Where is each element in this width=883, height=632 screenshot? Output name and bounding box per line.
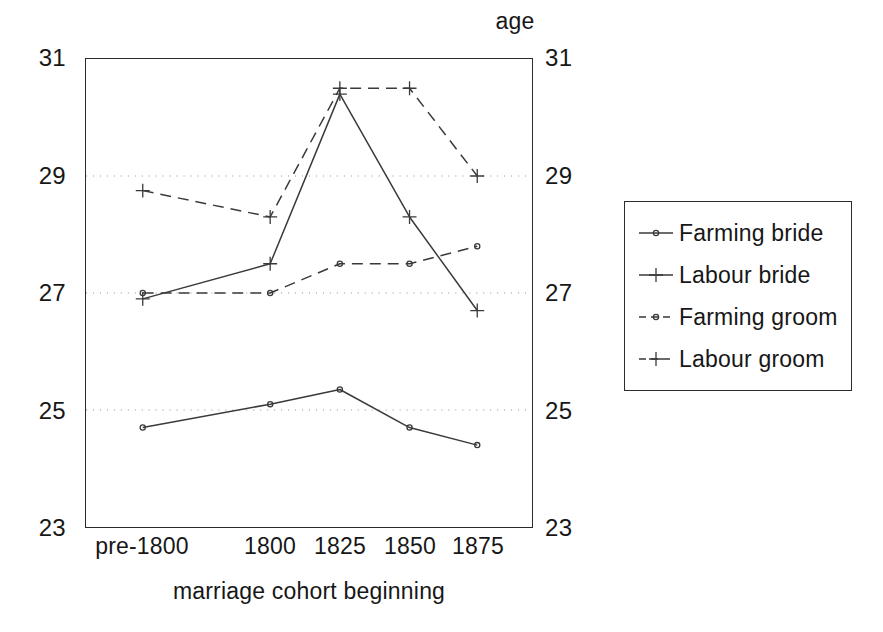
x-axis-tick-1850: 1850 [384, 535, 436, 558]
data-point-marker [263, 257, 277, 271]
legend-label: Labour groom [679, 346, 825, 373]
series-line-farming-bride [143, 390, 478, 446]
series-line-farming-groom [143, 246, 478, 293]
x-axis-tick-1875: 1875 [452, 535, 504, 558]
x-axis-tick-1825: 1825 [314, 535, 366, 558]
legend-list: Farming brideLabour brideFarming groomLa… [625, 202, 851, 390]
x-axis-tick-1800: 1800 [244, 535, 296, 558]
x-axis-tick-pre-1800: pre-1800 [95, 535, 189, 558]
y-axis-tick-right-23: 23 [545, 516, 605, 540]
y-axis-tick-right-29: 29 [545, 164, 605, 188]
plot-area [85, 58, 533, 528]
axis-label-marriage-cohort: marriage cohort beginning [85, 578, 533, 605]
data-point-marker [263, 210, 277, 224]
y-axis-tick-left-25: 25 [6, 399, 66, 423]
legend-item-farming-groom[interactable]: Farming groom [637, 296, 851, 338]
data-point-marker [470, 169, 484, 183]
figure-chart-marriage-age: age 31312929272725252323pre-180018001825… [0, 0, 883, 632]
series-line-labour-bride [143, 94, 478, 310]
y-axis-tick-right-25: 25 [545, 399, 605, 423]
data-point-marker [470, 304, 484, 318]
y-axis-tick-left-29: 29 [6, 164, 66, 188]
data-point-marker [403, 210, 417, 224]
legend-label: Farming groom [679, 304, 838, 331]
plot-canvas [86, 59, 532, 527]
data-point-marker [136, 184, 150, 198]
legend-item-farming-bride[interactable]: Farming bride [637, 212, 851, 254]
legend-item-labour-bride[interactable]: Labour bride [637, 254, 851, 296]
y-axis-tick-left-27: 27 [6, 281, 66, 305]
plus-marker-icon [637, 347, 675, 371]
legend-label: Labour bride [679, 262, 811, 289]
legend-box: Farming brideLabour brideFarming groomLa… [624, 201, 852, 391]
data-point-marker [403, 81, 417, 95]
y-axis-tick-right-27: 27 [545, 281, 605, 305]
legend-item-labour-groom[interactable]: Labour groom [637, 338, 851, 380]
data-point-marker [136, 292, 150, 306]
data-point-marker [333, 81, 347, 95]
plus-marker-icon [637, 263, 675, 287]
circle-marker-icon [637, 305, 675, 329]
y-axis-tick-left-23: 23 [6, 516, 66, 540]
axis-title-age: age [455, 8, 575, 35]
y-axis-tick-left-31: 31 [6, 46, 66, 70]
legend-label: Farming bride [679, 220, 824, 247]
series-line-labour-groom [143, 88, 478, 217]
y-axis-tick-right-31: 31 [545, 46, 605, 70]
circle-marker-icon [637, 221, 675, 245]
